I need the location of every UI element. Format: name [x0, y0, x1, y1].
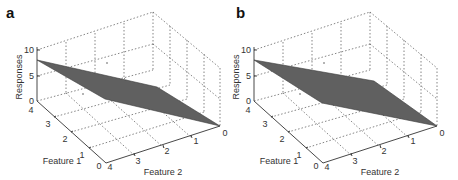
plot-3d-a: 10 5 0 4 3 2 1 0 4 3 2 1 0 Responses Fea… — [0, 0, 229, 180]
f1-tick-2: 2 — [279, 134, 284, 144]
plot-3d-b: 10 5 0 4 3 2 1 0 4 3 2 1 0 Responses Fea… — [229, 0, 458, 180]
f2-tick-0: 0 — [222, 128, 227, 138]
f1-tick-3: 3 — [262, 119, 267, 129]
y-axis-label: Feature 2 — [361, 167, 400, 177]
f2-tick-3: 3 — [135, 156, 140, 166]
z-axis-label: Responses — [14, 54, 24, 100]
f2-tick-2: 2 — [381, 146, 386, 156]
chart-panel-a: a — [0, 0, 229, 180]
z-tick-10: 10 — [24, 45, 34, 55]
z-axis-label: Responses — [231, 54, 241, 100]
f1-tick-4: 4 — [245, 105, 250, 115]
data-point — [323, 62, 325, 64]
x-axis-label: Feature 1 — [260, 156, 299, 166]
f1-tick-4: 4 — [28, 105, 33, 115]
z-tick-10: 10 — [241, 45, 251, 55]
f2-tick-0: 0 — [439, 128, 444, 138]
f2-tick-1: 1 — [410, 136, 415, 146]
chart-panel-b: b — [229, 0, 458, 180]
f2-tick-4: 4 — [107, 162, 112, 172]
z-tick-5: 5 — [246, 71, 251, 81]
z-tick-5: 5 — [29, 71, 34, 81]
f1-tick-3: 3 — [45, 119, 50, 129]
f1-tick-2: 2 — [62, 134, 67, 144]
f2-tick-3: 3 — [352, 156, 357, 166]
f1-tick-0: 0 — [96, 161, 101, 171]
data-point — [106, 62, 108, 64]
x-axis-label: Feature 1 — [43, 156, 82, 166]
response-surface-b — [254, 60, 437, 126]
y-axis-label: Feature 2 — [144, 167, 183, 177]
data-point — [82, 93, 84, 95]
response-surface-a — [37, 60, 220, 126]
f2-tick-1: 1 — [193, 136, 198, 146]
data-point — [299, 93, 301, 95]
f1-tick-0: 0 — [313, 161, 318, 171]
f2-tick-4: 4 — [324, 162, 329, 172]
f2-tick-2: 2 — [164, 146, 169, 156]
